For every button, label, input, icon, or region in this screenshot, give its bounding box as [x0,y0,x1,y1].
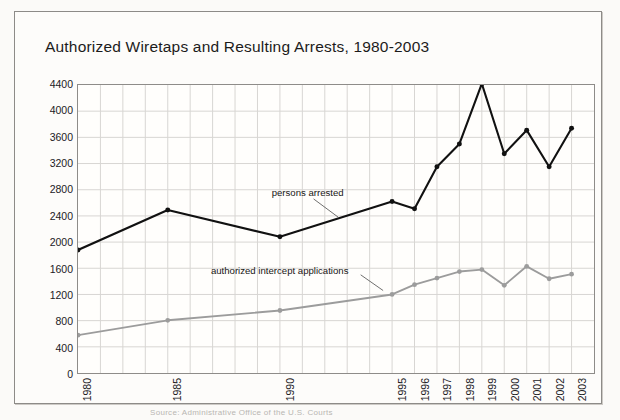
y-axis-tick-label: 400 [55,342,73,354]
x-axis-tick-label: 1999 [486,378,498,401]
series-annotations: persons arrested authorized intercept ap… [78,85,594,373]
series-label-intercept-applications: authorized intercept applications [211,265,349,276]
x-axis-tick-label: 1990 [284,378,296,401]
x-axis-tick-label: 2003 [576,378,588,401]
y-axis-tick-label: 2400 [50,210,73,222]
page-background: Authorized Wiretaps and Resulting Arrest… [0,0,620,420]
x-axis-tick-label: 2000 [509,378,521,401]
y-axis-tick-label: 4400 [50,78,73,90]
y-axis-tick-label: 2000 [50,236,73,248]
x-axis-tick-label: 1996 [419,378,431,401]
figure-frame: Authorized Wiretaps and Resulting Arrest… [14,11,602,404]
plot-area: persons arrested authorized intercept ap… [77,84,595,374]
y-axis-tick-label: 0 [67,368,73,380]
y-axis-tick-label: 3200 [50,157,73,169]
y-axis-tick-label: 3600 [50,131,73,143]
x-axis-tick-label: 1997 [441,378,453,401]
x-axis-tick-label: 1985 [171,378,183,401]
x-axis-tick-label: 1998 [464,378,476,401]
x-axis-tick-label: 1995 [396,378,408,401]
x-axis-tick-label: 1980 [81,378,93,401]
figure-caption: Source: Administrative Office of the U.S… [150,408,333,417]
y-axis-tick-label: 1600 [50,263,73,275]
y-axis-tick-label: 1200 [50,289,73,301]
x-axis-tick-label: 2001 [531,378,543,401]
y-axis-tick-label: 2800 [50,183,73,195]
x-axis-tick-label: 2002 [554,378,566,401]
series-label-persons-arrested: persons arrested [272,187,344,198]
y-axis-tick-label: 800 [55,315,73,327]
figure-title: Authorized Wiretaps and Resulting Arrest… [45,38,429,56]
y-axis-tick-labels: 4400400036003200280024002000160012008004… [27,84,73,374]
y-axis-tick-label: 4000 [50,104,73,116]
